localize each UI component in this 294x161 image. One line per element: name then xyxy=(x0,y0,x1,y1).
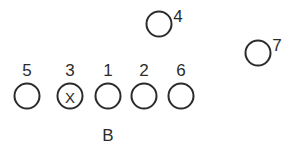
player-1-label: 1 xyxy=(103,61,112,80)
player-3-center-x-mark: X xyxy=(65,89,75,106)
player-2[interactable]: 2 xyxy=(132,61,157,109)
player-6-circle[interactable] xyxy=(169,84,194,109)
player-5[interactable]: 5 xyxy=(15,61,40,109)
player-2-circle[interactable] xyxy=(132,84,157,109)
player-3-center[interactable]: X3 xyxy=(58,61,83,109)
player-2-label: 2 xyxy=(139,61,148,80)
player-7-circle[interactable] xyxy=(246,41,271,66)
zone-label-b: B xyxy=(102,126,113,145)
player-3-center-label: 3 xyxy=(65,61,74,80)
players-group: 5X312647 xyxy=(15,7,282,109)
diagram-canvas: 5X312647 B xyxy=(0,0,294,161)
player-5-label: 5 xyxy=(22,61,31,80)
player-4[interactable]: 4 xyxy=(147,7,183,37)
player-4-circle[interactable] xyxy=(147,12,172,37)
zone-labels-group: B xyxy=(102,126,113,145)
player-7-label: 7 xyxy=(272,36,281,55)
player-1-circle[interactable] xyxy=(96,84,121,109)
player-6-label: 6 xyxy=(176,61,185,80)
player-1[interactable]: 1 xyxy=(96,61,121,109)
player-7[interactable]: 7 xyxy=(246,36,282,66)
player-4-label: 4 xyxy=(173,7,182,26)
player-6[interactable]: 6 xyxy=(169,61,194,109)
player-5-circle[interactable] xyxy=(15,84,40,109)
formation-diagram: 5X312647 B xyxy=(0,0,294,161)
